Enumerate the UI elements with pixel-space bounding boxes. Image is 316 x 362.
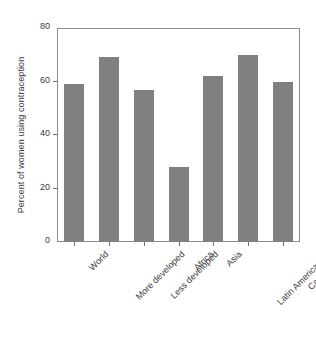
bar (99, 57, 119, 242)
x-axis-label-line: Africa (191, 249, 214, 272)
bar (203, 76, 223, 242)
bar (238, 55, 258, 242)
x-axis-label-line: Asia (224, 249, 243, 268)
x-tick-mark (248, 242, 249, 246)
x-axis-label: Latin America andCarribean (275, 249, 316, 315)
bar (64, 84, 84, 242)
x-tick-mark (179, 242, 180, 246)
x-axis-label: Asia (224, 249, 244, 269)
x-axis-label: World (87, 249, 111, 273)
y-tick-label: 20 (40, 182, 50, 192)
x-tick-mark (109, 242, 110, 246)
bar (169, 167, 189, 242)
bars-group (57, 28, 300, 242)
y-tick-label: 80 (40, 21, 50, 31)
x-axis-label-line: World (87, 249, 111, 273)
x-tick-mark (213, 242, 214, 246)
x-tick-mark (283, 242, 284, 246)
bar (134, 90, 154, 242)
y-tick-label: 60 (40, 75, 50, 85)
y-tick-label: 40 (40, 128, 50, 138)
bar-chart-figure: Percent of women using contraception 020… (0, 0, 316, 362)
y-axis-title: Percent of women using contraception (14, 28, 28, 242)
x-tick-mark (144, 242, 145, 246)
x-tick-mark (74, 242, 75, 246)
y-tick-label: 0 (45, 235, 50, 245)
bar (273, 82, 293, 243)
